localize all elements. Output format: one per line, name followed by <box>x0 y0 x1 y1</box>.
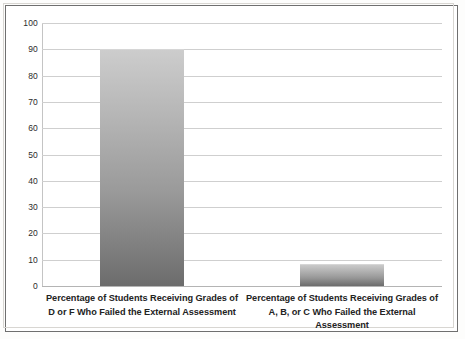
y-tick-label: 20 <box>4 228 38 238</box>
bar-top-edge <box>100 49 184 50</box>
y-tick-label: 40 <box>4 176 38 186</box>
bar-top-edge <box>300 264 384 265</box>
y-tick-label: 80 <box>4 71 38 81</box>
y-tick-label: 50 <box>4 150 38 160</box>
axis-baseline <box>42 286 442 287</box>
y-tick-label: 0 <box>4 281 38 291</box>
category-label-line: Percentage of Students Receiving Grades … <box>244 292 440 306</box>
y-tick-label: 100 <box>4 18 38 28</box>
category-label-a-b-or-c: Percentage of Students Receiving Grades … <box>242 292 442 332</box>
chart-figure: 100 90 80 70 60 50 40 30 20 10 0 Percent… <box>0 0 465 339</box>
gridline <box>42 23 442 24</box>
y-tick-label: 30 <box>4 202 38 212</box>
y-tick-label: 60 <box>4 123 38 133</box>
y-axis-tick-labels: 100 90 80 70 60 50 40 30 20 10 0 <box>0 23 38 286</box>
category-label-line: A, B, or C Who Failed the External Asses… <box>244 306 440 333</box>
category-label-d-or-f: Percentage of Students Receiving Grades … <box>42 292 242 332</box>
y-tick-label: 90 <box>4 44 38 54</box>
bar-grades-a-b-or-c <box>300 264 384 286</box>
category-label-line: D or F Who Failed the External Assessmen… <box>44 306 240 320</box>
bar-grades-d-or-f <box>100 49 184 286</box>
x-axis-category-labels: Percentage of Students Receiving Grades … <box>42 292 442 332</box>
plot-area <box>42 23 442 286</box>
category-label-line: Percentage of Students Receiving Grades … <box>44 292 240 306</box>
y-tick-label: 70 <box>4 97 38 107</box>
y-tick-label: 10 <box>4 255 38 265</box>
